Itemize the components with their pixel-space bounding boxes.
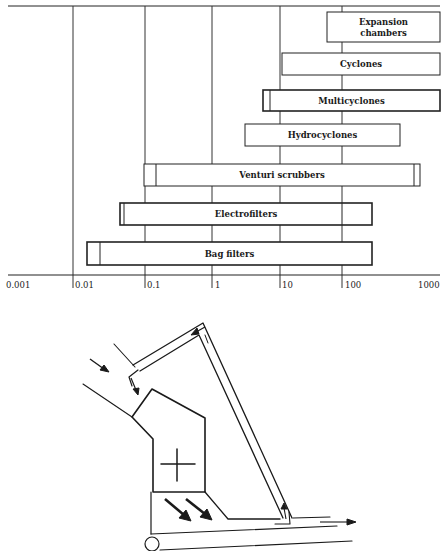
outlet-duct-top — [293, 517, 330, 518]
tick-label: 0.1 — [147, 280, 161, 290]
range-bar: Hydrocyclones — [245, 124, 400, 146]
dust-arrow-2 — [186, 499, 205, 514]
conveyor-top — [151, 526, 337, 534]
tick-label: 0.01 — [75, 280, 94, 290]
bar-label: Cyclones — [340, 59, 382, 69]
return-duct-inner-lip — [205, 335, 208, 343]
bar-label: chambers — [360, 28, 407, 38]
separator-schematic — [0, 300, 448, 551]
inlet-upper-wall — [114, 344, 135, 367]
outlet-arrow-head — [347, 519, 356, 525]
conveyor-bottom — [160, 541, 352, 550]
hood-arrow-head — [133, 388, 139, 395]
conveyor-roller — [145, 537, 159, 551]
bar-label: Bag filters — [205, 249, 255, 259]
tick-label: 1000 — [418, 280, 440, 290]
inlet-arrow-head — [100, 365, 109, 372]
dust-arrow-1 — [165, 499, 184, 515]
chamber-body — [132, 389, 205, 492]
bar-label: Multicyclones — [318, 96, 385, 106]
bar-label: Electrofilters — [215, 209, 278, 219]
range-bar: Bag filters — [87, 242, 372, 265]
bars: ExpansionchambersCyclonesMulticyclonesHy… — [87, 12, 440, 265]
tick-label: 1 — [215, 280, 220, 290]
range-bar: Expansionchambers — [327, 12, 440, 42]
return-duct-inner — [140, 335, 283, 518]
range-bar: Multicyclones — [263, 90, 440, 111]
range-bar: Cyclones — [282, 53, 440, 75]
tick-label: 10 — [282, 280, 293, 290]
tick-label: 100 — [345, 280, 361, 290]
range-bar: Electrofilters — [120, 203, 372, 225]
hopper — [205, 492, 280, 519]
return-duct-outer — [133, 323, 292, 518]
bar-label: Hydrocyclones — [288, 130, 358, 140]
separator-range-chart: ExpansionchambersCyclonesMulticyclonesHy… — [0, 0, 448, 300]
return-up-arrow — [284, 508, 286, 519]
x-axis-ticks: 0.0010.010.11101001000 — [6, 280, 440, 290]
range-bar: Venturi scrubbers — [144, 164, 420, 186]
bar-label: Venturi scrubbers — [238, 170, 325, 180]
tick-label: 0.001 — [6, 280, 30, 290]
inlet-lower-wall — [83, 384, 132, 417]
bar-label: Expansion — [359, 17, 408, 27]
